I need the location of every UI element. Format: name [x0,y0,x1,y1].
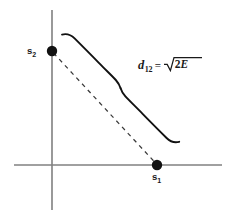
radical-sign-icon [164,56,202,72]
formula-variable: d [138,59,144,72]
point-label-s1-subscript: 1 [157,177,161,184]
diagram-canvas [0,0,231,221]
point-s1-marker [152,160,162,170]
point-label-s2-subscript: 2 [32,51,36,58]
point-label-s1: s1 [152,172,161,184]
radical-group: 2E [164,56,190,71]
measurement-brace [62,34,179,142]
formula-equals: = [155,60,161,71]
distance-formula-annotation: d12 = 2E [138,56,189,71]
geometric-diagram-figure: s2 s1 d12 = 2E [0,0,231,221]
point-label-s2: s2 [27,46,36,58]
formula-subscript: 12 [145,66,153,74]
point-s2-marker [47,46,57,56]
